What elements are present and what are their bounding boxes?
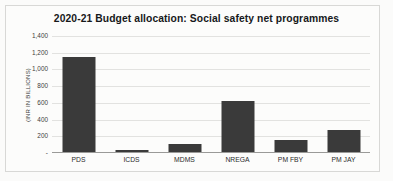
- chart-card: 2020-21 Budget allocation: Social safety…: [0, 0, 393, 181]
- bar[interactable]: [221, 101, 254, 153]
- chart-title: 2020-21 Budget allocation: Social safety…: [0, 13, 393, 24]
- y-axis-tick-label: 800: [18, 83, 48, 89]
- bar-slot: [264, 36, 317, 153]
- bar-slot: [211, 36, 264, 153]
- y-axis-tick-labels: -2004006008001,0001,2001,400: [14, 36, 48, 153]
- y-axis-tick-label: -: [18, 150, 48, 156]
- bar[interactable]: [274, 140, 307, 153]
- y-axis-tick-label: 1,400: [18, 33, 48, 39]
- bar-slot: [317, 36, 370, 153]
- bar[interactable]: [62, 57, 95, 153]
- bar-slot: [105, 36, 158, 153]
- plot-area: [52, 36, 370, 153]
- y-axis-tick-label: 1,200: [18, 50, 48, 56]
- bar-slot: [52, 36, 105, 153]
- x-axis-line: [52, 152, 370, 153]
- x-axis-category-label: PDS: [72, 156, 86, 163]
- x-axis-category-label: PM FBY: [278, 156, 303, 163]
- bar-slot: [158, 36, 211, 153]
- x-axis-category-label: ICDS: [123, 156, 139, 163]
- y-axis-tick-label: 600: [18, 100, 48, 106]
- x-axis-category-label: PM JAY: [331, 156, 355, 163]
- x-axis-category-label: MDMS: [174, 156, 195, 163]
- y-axis-tick-label: 200: [18, 133, 48, 139]
- y-axis-tick-label: 1,000: [18, 66, 48, 72]
- y-axis-tick-label: 400: [18, 116, 48, 122]
- x-axis-category-label: NREGA: [225, 156, 249, 163]
- x-axis-category-labels: PDSICDSMDMSNREGAPM FBYPM JAY: [52, 156, 370, 170]
- bar-series: [52, 36, 370, 153]
- bar[interactable]: [327, 130, 360, 153]
